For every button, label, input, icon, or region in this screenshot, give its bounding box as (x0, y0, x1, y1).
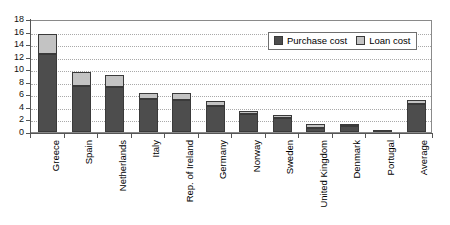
y-axis-tick-label: 14 (0, 40, 24, 49)
x-axis-label-italy: Italy (151, 140, 161, 157)
y-axis-tick (26, 58, 31, 59)
bar-segment-purchase-cost (139, 99, 158, 132)
y-axis-tick (26, 120, 31, 121)
bar-segment-loan-cost (139, 93, 158, 99)
gridline (31, 109, 431, 110)
x-axis-tick (432, 133, 433, 138)
y-axis-line (30, 19, 31, 134)
x-axis-label-denmark: Denmark (352, 140, 362, 179)
x-axis-tick (231, 133, 232, 138)
bar-segment-purchase-cost (340, 126, 359, 132)
x-axis-tick (399, 133, 400, 138)
bar-column (239, 19, 258, 132)
y-axis-tick-label: 6 (0, 90, 24, 99)
y-axis-tick (26, 95, 31, 96)
bar-segment-loan-cost (206, 101, 225, 107)
x-axis-label-greece: Greece (51, 140, 61, 171)
bar-segment-loan-cost (340, 124, 359, 126)
x-axis-label-spain: Spain (84, 140, 94, 164)
x-axis-tick (97, 133, 98, 138)
legend-item-purchase: Purchase cost (274, 35, 347, 46)
bar-segment-purchase-cost (38, 54, 57, 132)
y-axis-tick-label: 10 (0, 65, 24, 74)
chart-legend: Purchase costLoan cost (268, 32, 417, 50)
bar-segment-loan-cost (273, 115, 292, 118)
gridline (31, 59, 431, 60)
bar-segment-purchase-cost (273, 118, 292, 132)
bar-segment-purchase-cost (239, 114, 258, 132)
y-axis-tick-label: 0 (0, 128, 24, 137)
bar-segment-purchase-cost (72, 86, 91, 132)
x-axis-tick (131, 133, 132, 138)
gridline (31, 121, 431, 122)
legend-swatch-purchase-icon (274, 36, 283, 45)
bar-column (206, 19, 225, 132)
x-axis-label-united-kingdom: United Kingdom (319, 140, 329, 208)
bar-segment-loan-cost (407, 100, 426, 104)
x-axis-label-average: Average (419, 140, 429, 175)
stacked-bar-chart: 024681012141618 GreeceSpainNetherlandsIt… (0, 0, 450, 225)
y-axis-tick-label: 18 (0, 15, 24, 24)
y-axis-tick (26, 108, 31, 109)
x-axis-label-rep-of-ireland: Rep. of Ireland (185, 140, 195, 202)
x-axis-label-portugal: Portugal (386, 140, 396, 175)
y-axis-tick-label: 12 (0, 53, 24, 62)
bar-segment-purchase-cost (306, 128, 325, 132)
y-axis-tick-label: 2 (0, 115, 24, 124)
bar-column (72, 19, 91, 132)
bar-segment-purchase-cost (105, 87, 124, 132)
bar-segment-loan-cost (105, 75, 124, 88)
bar-segment-loan-cost (38, 34, 57, 53)
x-axis-tick (64, 133, 65, 138)
bar-segment-loan-cost (239, 111, 258, 114)
y-axis-tick (26, 45, 31, 46)
x-axis-tick (265, 133, 266, 138)
y-axis-tick-label: 4 (0, 103, 24, 112)
bar-column (105, 19, 124, 132)
x-axis-tick (198, 133, 199, 138)
x-axis-label-netherlands: Netherlands (118, 140, 128, 191)
bar-segment-purchase-cost (206, 106, 225, 132)
x-axis-tick (30, 133, 31, 138)
bar-segment-loan-cost (172, 93, 191, 100)
x-axis-tick (164, 133, 165, 138)
x-axis-label-sweden: Sweden (285, 140, 295, 174)
y-axis-tick (26, 33, 31, 34)
x-axis-tick (298, 133, 299, 138)
bar-column (172, 19, 191, 132)
gridline (31, 84, 431, 85)
bar-column (139, 19, 158, 132)
x-axis-tick (365, 133, 366, 138)
bar-segment-purchase-cost (373, 130, 392, 132)
legend-item-loan: Loan cost (356, 35, 410, 46)
gridline (31, 71, 431, 72)
y-axis-tick (26, 83, 31, 84)
legend-swatch-loan-icon (356, 36, 365, 45)
y-axis-tick (26, 70, 31, 71)
bar-segment-loan-cost (306, 124, 325, 127)
x-axis-label-norway: Norway (252, 140, 262, 172)
bar-column (38, 19, 57, 132)
x-axis-label-germany: Germany (218, 140, 228, 179)
x-axis-tick (332, 133, 333, 138)
gridline (31, 96, 431, 97)
bar-segment-purchase-cost (172, 100, 191, 132)
y-axis-tick-label: 16 (0, 28, 24, 37)
bar-segment-purchase-cost (407, 104, 426, 132)
bar-segment-loan-cost (72, 72, 91, 86)
y-axis-tick-label: 8 (0, 78, 24, 87)
legend-label: Loan cost (369, 35, 410, 46)
legend-label: Purchase cost (287, 35, 347, 46)
y-axis-tick (26, 20, 31, 21)
